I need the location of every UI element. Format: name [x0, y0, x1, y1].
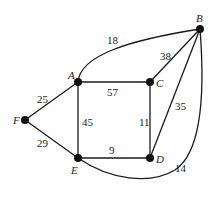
- edge-weight-label: 11: [139, 116, 150, 128]
- vertex-label-e: E: [70, 164, 78, 176]
- vertex-e: [74, 154, 82, 162]
- edge-weight-label: 38: [160, 50, 172, 62]
- edge-weight-label: 57: [107, 86, 119, 98]
- graph-diagram: 1857254538113592914ABCDEF: [0, 0, 218, 200]
- vertex-f: [21, 116, 29, 124]
- edge-d-b: [150, 29, 200, 158]
- edge-weight-label: 18: [107, 34, 119, 46]
- vertex-b: [196, 25, 204, 33]
- vertex-label-d: D: [155, 153, 164, 165]
- edge-weight-label: 35: [175, 100, 187, 112]
- edge-weight-label: 45: [82, 116, 94, 128]
- vertex-a: [74, 78, 82, 86]
- edge-weight-label: 25: [37, 93, 49, 105]
- vertex-c: [146, 78, 154, 86]
- vertex-label-c: C: [156, 77, 164, 89]
- edge-f-e: [25, 120, 78, 158]
- vertex-label-a: A: [67, 69, 75, 81]
- edge-weight-label: 14: [175, 162, 187, 174]
- vertex-label-f: F: [12, 114, 20, 126]
- edge-a-b: [78, 29, 200, 82]
- edge-a-f: [25, 82, 78, 120]
- vertex-label-b: B: [196, 12, 203, 24]
- edge-weight-label: 9: [109, 144, 115, 156]
- edge-weight-label: 29: [37, 137, 49, 149]
- vertex-d: [146, 154, 154, 162]
